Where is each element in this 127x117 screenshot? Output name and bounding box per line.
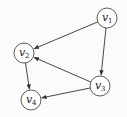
graph-svg: v1v2v3v4	[0, 0, 127, 117]
node-v4: v4	[21, 90, 41, 110]
edge-v2-v4	[25, 63, 29, 89]
nodes: v1v2v3v4	[14, 8, 117, 110]
edge-v3-v2	[34, 57, 91, 82]
node-v1: v1	[97, 8, 117, 28]
graph-canvas: v1v2v3v4	[0, 0, 127, 117]
edge-v3-v4	[42, 88, 90, 98]
node-subscript: 4	[32, 99, 37, 107]
node-v2: v2	[14, 43, 34, 63]
node-v3: v3	[90, 76, 110, 96]
node-subscript: 2	[25, 52, 29, 60]
edge-v1-v3	[101, 28, 106, 75]
node-subscript: 1	[108, 17, 112, 25]
edge-v1-v2	[34, 22, 98, 49]
node-subscript: 3	[101, 85, 105, 93]
